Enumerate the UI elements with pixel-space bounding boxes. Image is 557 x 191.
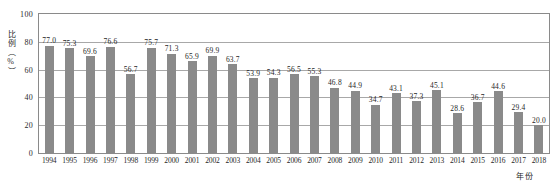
bar xyxy=(228,64,237,153)
bar-value-label: 43.1 xyxy=(389,85,403,93)
bar-value-label: 76.6 xyxy=(103,38,117,46)
bar-slot: 34.7 xyxy=(366,14,386,153)
x-axis-ticks: 1994199519961997199819992000200120022003… xyxy=(39,156,549,165)
bar xyxy=(432,90,441,153)
bar-slot: 63.7 xyxy=(223,14,243,153)
bar-value-label: 53.9 xyxy=(246,70,260,78)
bar-value-label: 36.7 xyxy=(471,94,485,102)
bar-value-label: 77.0 xyxy=(42,37,56,45)
x-tick-label: 2014 xyxy=(447,156,467,165)
bar-value-label: 54.3 xyxy=(267,69,281,77)
bar xyxy=(269,78,278,153)
bar xyxy=(351,91,360,153)
bar-value-label: 29.4 xyxy=(512,104,526,112)
bar-slot: 44.6 xyxy=(488,14,508,153)
bar-value-label: 65.9 xyxy=(185,53,199,61)
bar-value-label: 28.6 xyxy=(450,105,464,113)
bar xyxy=(188,61,197,153)
bar-chart: 比例（%） 020406080100 77.075.369.676.656.77… xyxy=(0,0,557,191)
x-tick-label: 2013 xyxy=(427,156,447,165)
x-tick-label: 1996 xyxy=(80,156,100,165)
bar-slot: 54.3 xyxy=(263,14,283,153)
x-tick-label: 2002 xyxy=(202,156,222,165)
bar xyxy=(371,105,380,153)
x-tick-label: 1994 xyxy=(39,156,59,165)
bar xyxy=(65,48,74,153)
x-tick-label: 2018 xyxy=(529,156,549,165)
x-tick-label: 2000 xyxy=(161,156,181,165)
bar xyxy=(453,113,462,153)
x-tick-label: 2004 xyxy=(243,156,263,165)
y-tick-label: 20 xyxy=(24,121,33,130)
bar-value-label: 34.7 xyxy=(369,96,383,104)
bar xyxy=(249,78,258,153)
x-tick-label: 2008 xyxy=(325,156,345,165)
bar-slot: 69.9 xyxy=(202,14,222,153)
x-tick-label: 1999 xyxy=(141,156,161,165)
bar xyxy=(106,47,115,153)
bar-series: 77.075.369.676.656.775.771.365.969.963.7… xyxy=(39,14,549,153)
bar-slot: 29.4 xyxy=(508,14,528,153)
bar-value-label: 69.6 xyxy=(83,48,97,56)
bar-slot: 75.3 xyxy=(59,14,79,153)
bar xyxy=(208,56,217,153)
x-tick-label: 2009 xyxy=(345,156,365,165)
x-tick-label: 2010 xyxy=(366,156,386,165)
y-tick-label: 0 xyxy=(29,149,33,158)
x-tick-label: 2012 xyxy=(406,156,426,165)
bar xyxy=(147,48,156,153)
bar-slot: 28.6 xyxy=(447,14,467,153)
bar-slot: 71.3 xyxy=(161,14,181,153)
bar-slot: 77.0 xyxy=(39,14,59,153)
bar xyxy=(330,88,339,153)
bar-slot: 76.6 xyxy=(100,14,120,153)
x-tick-label: 2001 xyxy=(182,156,202,165)
bar-slot: 65.9 xyxy=(182,14,202,153)
bar-value-label: 69.9 xyxy=(205,47,219,55)
bar-slot: 56.7 xyxy=(121,14,141,153)
bar xyxy=(494,91,503,153)
bar-value-label: 44.9 xyxy=(348,82,362,90)
bar xyxy=(473,102,482,153)
bar xyxy=(290,74,299,153)
bar xyxy=(412,101,421,153)
bar-slot: 37.3 xyxy=(406,14,426,153)
y-tick-label: 80 xyxy=(24,37,33,46)
bar xyxy=(45,46,54,153)
bar xyxy=(392,93,401,153)
bar-value-label: 75.3 xyxy=(63,40,77,48)
x-tick-label: 2006 xyxy=(284,156,304,165)
bar-value-label: 55.3 xyxy=(308,68,322,76)
bar xyxy=(126,74,135,153)
x-tick-label: 2011 xyxy=(386,156,406,165)
x-tick-label: 2015 xyxy=(468,156,488,165)
x-tick-label: 2005 xyxy=(263,156,283,165)
y-tick-label: 60 xyxy=(24,65,33,74)
bar-slot: 45.1 xyxy=(427,14,447,153)
bar-value-label: 45.1 xyxy=(430,82,444,90)
bar-slot: 36.7 xyxy=(468,14,488,153)
bar-slot: 44.9 xyxy=(345,14,365,153)
x-tick-label: 1995 xyxy=(59,156,79,165)
x-tick-label: 1998 xyxy=(121,156,141,165)
bar-slot: 53.9 xyxy=(243,14,263,153)
bar-value-label: 44.6 xyxy=(491,83,505,91)
bar-value-label: 75.7 xyxy=(144,39,158,47)
x-axis-title: 年份 xyxy=(516,170,533,181)
x-tick-label: 2003 xyxy=(223,156,243,165)
bar-value-label: 56.5 xyxy=(287,66,301,74)
bar-value-label: 20.0 xyxy=(532,117,546,125)
bar-slot: 69.6 xyxy=(80,14,100,153)
bar xyxy=(514,112,523,153)
x-tick-label: 2007 xyxy=(304,156,324,165)
y-tick-label: 40 xyxy=(24,93,33,102)
bar-slot: 43.1 xyxy=(386,14,406,153)
bar xyxy=(310,76,319,153)
bar xyxy=(167,54,176,153)
bar-slot: 75.7 xyxy=(141,14,161,153)
bar-value-label: 46.8 xyxy=(328,79,342,87)
bar-slot: 20.0 xyxy=(529,14,549,153)
x-tick-label: 1997 xyxy=(100,156,120,165)
bar xyxy=(86,56,95,153)
x-tick-label: 2017 xyxy=(508,156,528,165)
